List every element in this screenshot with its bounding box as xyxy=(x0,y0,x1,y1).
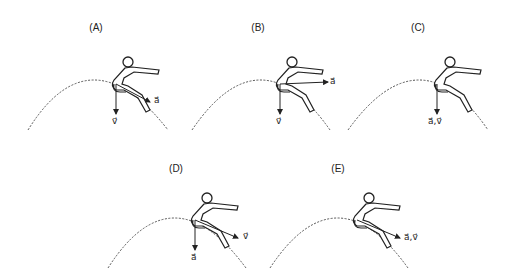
velocity-label: v⃗ xyxy=(112,116,117,126)
acceleration-velocity-arrow xyxy=(357,220,400,238)
panel-d: (D) v⃗ a⃗ xyxy=(100,140,270,275)
acceleration-arrow xyxy=(280,82,328,84)
acceleration-label: a⃗ xyxy=(330,76,336,86)
panel-e: (E) a⃗,v⃗ xyxy=(270,140,440,275)
skier-figure xyxy=(191,193,238,248)
skier-figure xyxy=(112,57,159,112)
skier-diagram xyxy=(180,0,350,135)
velocity-label: v⃗ xyxy=(276,116,281,126)
skier-diagram xyxy=(340,0,510,135)
acceleration-velocity-label: a⃗,v⃗ xyxy=(404,232,418,242)
acceleration-label: a⃗ xyxy=(191,252,197,262)
skier-diagram xyxy=(0,0,170,135)
skier-figure xyxy=(276,57,323,112)
panel-a: (A) a⃗ v⃗ xyxy=(0,0,170,135)
skier-figure xyxy=(434,57,481,112)
skier-diagram xyxy=(270,140,440,275)
acceleration-label: a⃗ xyxy=(154,95,160,105)
skier-figure xyxy=(353,193,400,248)
velocity-label: v⃗ xyxy=(243,231,248,241)
panel-c: (C) a⃗,v⃗ xyxy=(340,0,510,135)
panel-b: (B) a⃗ v⃗ xyxy=(180,0,350,135)
velocity-arrow xyxy=(195,220,238,238)
acceleration-velocity-label: a⃗,v⃗ xyxy=(428,116,442,126)
skier-diagram xyxy=(100,140,270,275)
acceleration-arrow xyxy=(116,84,150,102)
